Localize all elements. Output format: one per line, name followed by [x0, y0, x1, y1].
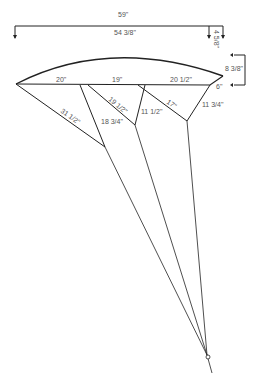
chord-segment-2: 19": [112, 76, 123, 83]
bridle-lines: [16, 84, 212, 373]
tow-ring-icon: [206, 355, 210, 359]
center-label: 11 1/2": [141, 108, 163, 115]
overall-span-label: 59": [118, 11, 129, 18]
chord-segment-1: 20": [56, 76, 67, 83]
kite-diagram: 59" 54 3/8" 4 5/8" 8 3/8" 6" 20" 19" 20 …: [0, 0, 257, 385]
inner-a-label: 19 1/2": [107, 95, 129, 115]
chord-span-label: 54 3/8": [114, 29, 136, 36]
right-a-label: 17": [165, 98, 178, 110]
right-b-label: 11 3/4": [202, 101, 224, 108]
chord-segment-3: 20 1/2": [170, 76, 192, 83]
arc-height-label: 8 3/8": [225, 65, 244, 72]
tip-offset-label: 4 5/8": [213, 30, 220, 49]
tip-drop-label: 6": [216, 83, 223, 90]
inner-b-label: 18 3/4": [101, 118, 123, 125]
